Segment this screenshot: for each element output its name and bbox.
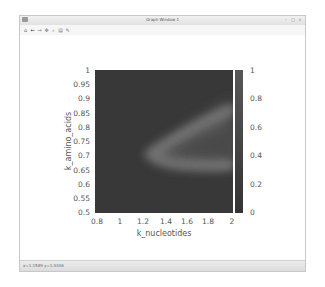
zoom-icon[interactable]: ⌕: [51, 28, 56, 33]
close-button[interactable]: ×: [298, 17, 302, 22]
x-tick: 1.8: [202, 217, 214, 226]
colorbar-tick: 1: [250, 66, 255, 75]
forward-icon[interactable]: →: [37, 28, 42, 33]
y-tick: 0.8: [78, 123, 90, 132]
pan-icon[interactable]: ✥: [44, 28, 49, 33]
x-tick: 1: [118, 217, 123, 226]
x-tick: 1.6: [181, 217, 193, 226]
y-tick: 0.85: [73, 109, 90, 118]
y-tick: 0.95: [73, 80, 90, 89]
save-icon[interactable]: ✎: [65, 28, 70, 33]
heatmap-image: [95, 70, 233, 213]
heatmap[interactable]: [95, 70, 233, 213]
y-tick: 0.55: [73, 194, 90, 203]
x-tick: 0.8: [91, 217, 103, 226]
cursor-coordinates: x=1.1589 y=1.0346: [23, 263, 64, 269]
y-axis-label: k_amino_acids: [64, 112, 73, 170]
colorbar-tick: 0.2: [250, 180, 262, 189]
maximize-button[interactable]: □: [291, 17, 295, 22]
colorbar-tick: 0.6: [250, 123, 262, 132]
x-axis-label: k_nucleotides: [137, 229, 192, 238]
colorbar-tick: 0.8: [250, 94, 262, 103]
x-tick: 1.4: [160, 217, 172, 226]
plot-toolbar: ⌂ ← → ✥ ⌕ ▤ ✎: [20, 25, 305, 35]
colorbar-tick: 0.4: [250, 151, 262, 160]
minimize-button[interactable]: –: [284, 17, 288, 22]
colorbar-tick: 0: [250, 208, 255, 217]
status-bar: x=1.1589 y=1.0346: [20, 260, 305, 271]
x-tick: 2: [230, 217, 235, 226]
y-tick: 0.9: [78, 94, 90, 103]
window-controls: – □ ×: [284, 17, 302, 22]
y-tick: 0.65: [73, 166, 90, 175]
y-tick: 0.6: [78, 180, 90, 189]
configure-icon[interactable]: ▤: [58, 28, 63, 33]
colorbar: [235, 70, 243, 213]
y-tick: 0.75: [73, 137, 90, 146]
y-tick: 0.7: [78, 151, 90, 160]
window-title: Graph Window 1: [20, 17, 305, 23]
x-tick: 1.2: [137, 217, 149, 226]
back-icon[interactable]: ←: [30, 28, 35, 33]
y-tick: 0.5: [78, 208, 90, 217]
home-icon[interactable]: ⌂: [23, 28, 28, 33]
y-tick: 1: [85, 66, 90, 75]
